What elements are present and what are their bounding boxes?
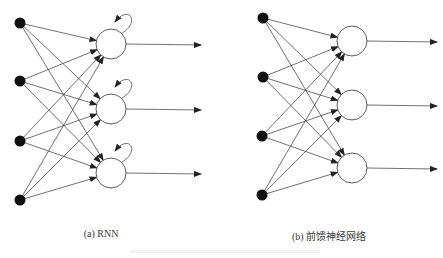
- connection-arrow: [20, 141, 97, 168]
- connection-arrow: [20, 57, 103, 200]
- connection-arrow: [20, 50, 97, 81]
- input-node: [15, 18, 26, 29]
- output-arrow: [367, 168, 437, 169]
- output-arrow: [126, 109, 201, 110]
- input-node: [258, 13, 269, 24]
- output-arrow: [126, 44, 201, 45]
- output-arrow: [367, 41, 437, 42]
- output-arrow: [126, 173, 201, 174]
- feedforward-panel: [257, 13, 438, 201]
- connection-arrow: [20, 55, 101, 141]
- faint-figure-caption: [130, 250, 320, 253]
- connection-arrow: [263, 18, 341, 95]
- input-node: [15, 136, 26, 147]
- connection-arrow: [20, 23, 103, 160]
- caption-feedforward: (b) 前馈神经网络: [292, 228, 366, 243]
- connection-arrow: [20, 114, 97, 141]
- connection-arrow: [20, 23, 100, 99]
- connection-arrow: [262, 110, 338, 136]
- connection-arrow: [20, 23, 96, 41]
- input-node: [258, 72, 269, 83]
- input-node: [15, 195, 26, 206]
- output-arrow: [367, 105, 437, 106]
- caption-rnn: (a) RNN: [84, 228, 119, 239]
- connection-arrow: [262, 136, 338, 163]
- hidden-node: [337, 90, 367, 120]
- input-node: [257, 131, 268, 142]
- hidden-node: [337, 153, 367, 183]
- connection-arrow: [263, 47, 338, 77]
- neural-network-diagram: [0, 0, 443, 258]
- connection-arrow: [263, 18, 344, 155]
- connection-arrow: [263, 18, 337, 37]
- input-node: [15, 76, 26, 87]
- hidden-node: [337, 26, 367, 56]
- connection-arrow: [262, 52, 342, 136]
- input-node: [257, 190, 268, 201]
- rnn-panel: [15, 14, 202, 205]
